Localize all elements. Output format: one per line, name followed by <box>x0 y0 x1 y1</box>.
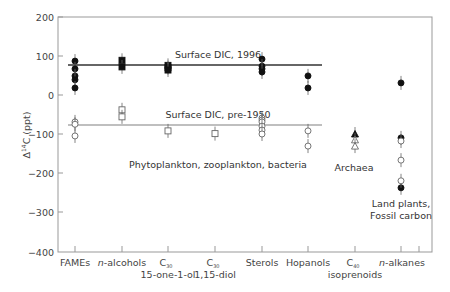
data-point-circle <box>259 69 265 75</box>
y-tick-200: 200 <box>36 12 54 23</box>
data-point-circle <box>398 80 404 86</box>
y-tick-m300: −300 <box>28 207 54 218</box>
cat-c30-a-line2: 15-one-1-ol <box>141 269 196 280</box>
x-category-labels: FAMEs n-alcohols C30 15-one-1-ol C30 1,1… <box>60 257 425 280</box>
annotation-archaea: Archaea <box>335 162 374 173</box>
cat-c40-line2: isoprenoids <box>328 269 382 280</box>
data-point-circle <box>305 128 311 134</box>
y-tick-100: 100 <box>36 51 54 62</box>
data-point-circle <box>72 121 78 127</box>
data-point-circle <box>305 143 311 149</box>
data-point-circle <box>259 131 265 137</box>
cat-c30-a: C30 <box>159 257 172 269</box>
data-point-circle <box>72 133 78 139</box>
data-points <box>72 52 404 195</box>
data-point-triangle <box>352 143 359 150</box>
chart: 200 100 0 −100 −200 −300 −400 Δ14C (ppt)… <box>0 0 450 292</box>
y-tick-m400: −400 <box>28 247 54 258</box>
cat-c30-b-line2: 1,15-diol <box>194 269 236 280</box>
data-point-circle <box>398 138 404 144</box>
data-point-square <box>165 67 171 73</box>
y-label-sup: 14 <box>20 144 27 152</box>
svg-text:Δ14C (ppt): Δ14C (ppt) <box>20 112 32 159</box>
data-point-circle <box>72 85 78 91</box>
data-point-circle <box>305 85 311 91</box>
annotation-dic-pre1950: Surface DIC, pre-1950 <box>165 109 270 120</box>
data-point-circle <box>398 178 404 184</box>
data-point-circle <box>305 73 311 79</box>
cat-hopanols: Hopanols <box>286 257 330 268</box>
data-point-square <box>212 131 218 137</box>
cat-sterols: Sterols <box>246 257 279 268</box>
y-tick-m200: −200 <box>28 168 54 179</box>
data-point-square <box>165 128 171 134</box>
annotation-dic-1996: Surface DIC, 1996 <box>175 49 261 60</box>
data-point-circle <box>398 157 404 163</box>
annotation-phytoplankton: Phytoplankton, zooplankton, bacteria <box>129 159 307 170</box>
cat-c30-b: C30 <box>206 257 219 269</box>
cat-n-alcohols-rest: -alcohols <box>104 257 146 268</box>
cat-n-alkanes-rest: -alkanes <box>385 257 425 268</box>
cat-n-alcohols: n-alcohols <box>98 257 146 268</box>
y-label-rest: C (ppt) <box>21 112 32 145</box>
data-point-square <box>119 114 125 120</box>
y-tick-0: 0 <box>48 90 54 101</box>
x-axis <box>75 246 419 252</box>
cat-c40: C40 <box>346 257 359 269</box>
y-axis <box>58 17 63 212</box>
cat-n-alkanes: n-alkanes <box>379 257 425 268</box>
annotation-fossil-carbon: Fossil carbon <box>370 210 432 221</box>
annotation-land-plants: Land plants, <box>372 198 430 209</box>
cat-fames: FAMEs <box>60 257 90 268</box>
y-axis-label: Δ14C (ppt) <box>20 112 32 159</box>
data-point-square <box>119 64 125 70</box>
